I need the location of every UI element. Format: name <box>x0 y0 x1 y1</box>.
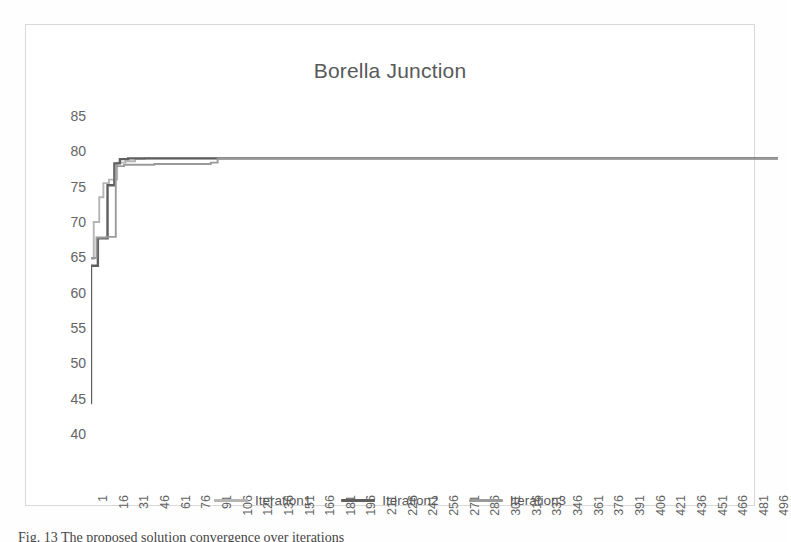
series-line-iteration1 <box>91 158 778 258</box>
x-axis: 1163146617691106121136151166181196211226… <box>91 437 778 499</box>
x-tick-label: 496 <box>777 495 791 516</box>
y-tick-label: 55 <box>52 320 86 336</box>
figure-caption: Fig. 13 The proposed solution convergenc… <box>18 530 778 542</box>
series-line-iteration2 <box>91 158 778 404</box>
legend-label: Iteration1 <box>255 493 311 508</box>
legend-item-iteration2[interactable]: Iteration2 <box>341 493 438 508</box>
legend-item-iteration3[interactable]: Iteration3 <box>469 493 566 508</box>
y-tick-label: 70 <box>52 214 86 230</box>
legend-swatch-icon <box>214 499 248 502</box>
y-tick-label: 80 <box>52 143 86 159</box>
y-tick-label: 40 <box>52 426 86 442</box>
y-tick-label: 50 <box>52 355 86 371</box>
legend-swatch-icon <box>469 499 503 502</box>
legend-label: Iteration2 <box>382 493 438 508</box>
legend-item-iteration1[interactable]: Iteration1 <box>214 493 311 508</box>
y-tick-label: 85 <box>52 108 86 124</box>
plot-area <box>91 116 778 434</box>
legend-swatch-icon <box>341 499 375 502</box>
chart-title: Borella Junction <box>26 59 754 83</box>
y-axis: 85807570656055504540 <box>52 25 86 542</box>
chart-legend: Iteration1Iteration2Iteration3 <box>26 493 754 508</box>
y-tick-label: 45 <box>52 391 86 407</box>
chart-container: Borella Junction 85807570656055504540 11… <box>25 24 755 506</box>
legend-label: Iteration3 <box>510 493 566 508</box>
x-tick-label: 481 <box>757 495 771 516</box>
series-line-iteration3 <box>91 158 778 258</box>
y-tick-label: 65 <box>52 249 86 265</box>
series-canvas <box>91 116 778 434</box>
y-tick-label: 60 <box>52 285 86 301</box>
y-tick-label: 75 <box>52 179 86 195</box>
